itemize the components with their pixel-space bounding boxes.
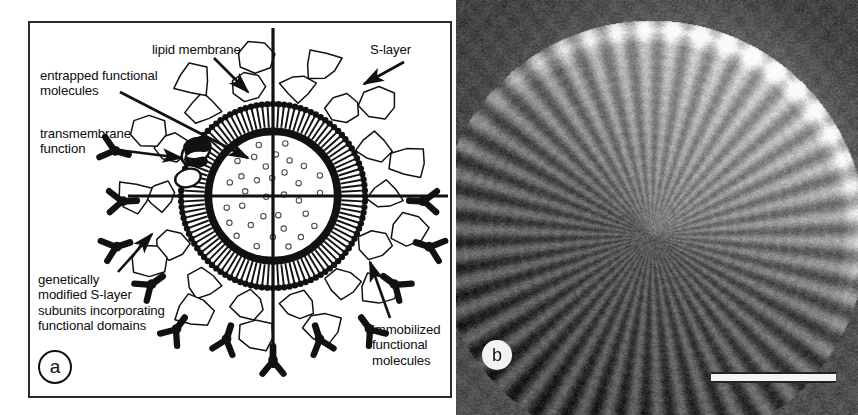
phospholipid-head <box>253 283 259 289</box>
label-entrapped-line2: molecules <box>40 83 158 98</box>
phospholipid-head <box>286 102 292 108</box>
phospholipid-tail <box>227 255 237 272</box>
entrapped-molecule <box>296 198 301 203</box>
phospholipid-head <box>362 187 368 193</box>
entrapped-molecule <box>243 189 248 194</box>
phospholipid-tail <box>252 110 257 129</box>
entrapped-molecule <box>256 142 261 147</box>
label-transmembrane-line2: function <box>40 141 131 156</box>
entrapped-molecule <box>298 234 303 239</box>
phospholipid-tail <box>200 235 216 246</box>
phospholipid-head <box>297 281 303 287</box>
entrapped-molecule <box>312 223 317 228</box>
entrapped-molecule <box>286 244 291 249</box>
phospholipid-tail <box>330 235 346 246</box>
s-layer-subunit <box>185 92 222 123</box>
s-layer-subunit <box>239 42 275 74</box>
phospholipid-head <box>292 104 298 110</box>
phospholipid-head <box>292 282 298 288</box>
phospholipid-head <box>248 104 254 110</box>
entrapped-molecule <box>261 214 266 219</box>
phospholipid-head <box>361 204 367 210</box>
panel-a: lipid membrane entrapped functional mole… <box>0 0 456 415</box>
phospholipid-tail <box>184 191 204 192</box>
phospholipid-tail <box>342 200 362 201</box>
label-s-layer-line1: S-layer <box>370 42 411 57</box>
phospholipid-head <box>178 198 184 204</box>
phospholipid-tail <box>203 239 219 251</box>
phospholipid-head <box>182 220 188 226</box>
phospholipid-tail <box>285 109 289 129</box>
phospholipid-head <box>264 285 270 291</box>
panel-b: b <box>456 0 858 415</box>
phospholipid-tail <box>277 107 278 127</box>
label-lipid-membrane-line1: lipid membrane <box>152 42 241 57</box>
phospholipid-tail <box>252 263 257 282</box>
entrapped-molecule <box>227 180 232 185</box>
phospholipid-tail <box>218 250 230 266</box>
scale-bar <box>711 372 836 383</box>
entrapped-molecule <box>234 233 239 238</box>
phospholipid-head <box>179 204 185 210</box>
phospholipid-tail <box>342 191 362 192</box>
label-lipid-membrane: lipid membrane <box>152 42 241 57</box>
label-immobilized-line3: molecules <box>372 353 441 368</box>
label-genetic-line2: modified S-layer <box>38 287 165 302</box>
phospholipid-tail <box>322 245 336 259</box>
label-entrapped-line1: entrapped functional <box>40 68 158 83</box>
phospholipid-tail <box>290 263 295 282</box>
s-layer-subunit <box>325 94 359 123</box>
label-genetically-modified-subunits: genetically modified S-layer subunits in… <box>38 272 165 334</box>
phospholipid-tail <box>319 129 332 144</box>
entrapped-molecule <box>240 203 245 208</box>
electron-micrograph <box>456 0 858 415</box>
phospholipid-head <box>281 102 287 108</box>
entrapped-molecule <box>224 205 229 210</box>
phospholipid-tail <box>332 232 349 242</box>
phospholipid-tail <box>332 150 349 160</box>
phospholipid-head <box>259 284 265 290</box>
s-layer-subunit <box>356 131 393 162</box>
entrapped-molecule <box>276 213 281 218</box>
phospholipid-head <box>286 283 292 289</box>
phospholipid-head <box>361 182 367 188</box>
entrapped-molecule <box>254 178 259 183</box>
phospholipid-head <box>358 165 364 171</box>
antibody-y-glyph <box>101 232 133 260</box>
phospholipid-tail <box>281 265 283 285</box>
phospholipid-tail <box>206 242 221 255</box>
s-layer-subunit <box>239 320 273 351</box>
s-layer-subunit <box>308 50 343 79</box>
s-layer-subunit <box>358 231 392 260</box>
label-genetic-line3: subunits incorporating <box>38 303 165 318</box>
antibody-y-glyph <box>409 190 437 212</box>
phospholipid-tail <box>342 204 362 206</box>
label-s-layer: S-layer <box>370 42 411 57</box>
phospholipid-tail <box>327 239 343 251</box>
panel-label-a: a <box>38 350 72 384</box>
s-layer-subunit <box>233 73 266 102</box>
phospholipid-tail <box>319 248 332 263</box>
entrapped-molecule <box>235 158 240 163</box>
phospholipid-tail <box>341 208 361 212</box>
phospholipid-tail <box>222 253 233 269</box>
phospholipid-tail <box>285 264 289 284</box>
phospholipid-tail <box>197 232 214 242</box>
phospholipid-head <box>181 215 187 221</box>
phospholipid-tail <box>309 120 319 137</box>
phospholipid-head <box>259 102 265 108</box>
phospholipid-tail <box>322 133 336 147</box>
phospholipid-tail <box>187 213 206 218</box>
phospholipid-tail <box>340 213 359 218</box>
figure-container: lipid membrane entrapped functional mole… <box>0 0 858 415</box>
phospholipid-head <box>275 285 281 291</box>
phospholipid-head <box>360 176 366 182</box>
s-layer-subunit <box>174 63 208 96</box>
phospholipid-tail <box>214 248 227 263</box>
phospholipid-tail <box>218 126 230 142</box>
phospholipid-tail <box>312 253 323 269</box>
s-layer-subunit <box>367 180 404 207</box>
phospholipid-tail <box>257 264 261 284</box>
phospholipid-tail <box>262 265 264 285</box>
phospholipid-tail <box>277 265 278 285</box>
